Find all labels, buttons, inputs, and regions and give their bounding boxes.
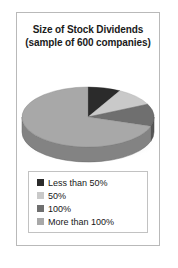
chart-title-line-2: (sample of 600 companies)	[21, 36, 155, 49]
chart-figure: Size of Stock Dividends (sample of 600 c…	[16, 12, 160, 246]
legend-item-100[interactable]: 100%	[37, 202, 147, 215]
pie-top-face	[22, 87, 154, 147]
legend-label-100: 100%	[48, 204, 71, 214]
legend-swatch-icon-more-than-100	[37, 218, 44, 225]
legend-item-less-than-50[interactable]: Less than 50%	[37, 176, 147, 189]
chart-legend: Less than 50% 50% 100% More than 100%	[28, 171, 148, 233]
legend-item-more-than-100[interactable]: More than 100%	[37, 215, 147, 228]
legend-label-more-than-100: More than 100%	[48, 217, 114, 227]
legend-swatch-icon-50	[37, 192, 44, 199]
legend-label-50: 50%	[48, 191, 66, 201]
legend-swatch-icon-less-than-50	[37, 179, 44, 186]
pie-chart	[17, 51, 159, 167]
legend-label-less-than-50: Less than 50%	[48, 178, 108, 188]
pie-chart-svg	[17, 51, 159, 167]
legend-swatch-icon-100	[37, 205, 44, 212]
chart-title-line-1: Size of Stock Dividends	[21, 23, 155, 36]
chart-title: Size of Stock Dividends (sample of 600 c…	[17, 13, 159, 49]
legend-item-50[interactable]: 50%	[37, 189, 147, 202]
